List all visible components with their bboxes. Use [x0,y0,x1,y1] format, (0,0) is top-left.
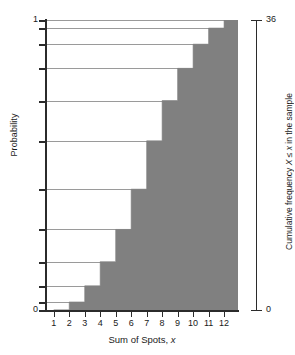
cumulative-step-area [54,20,238,310]
y-axis-tick [39,286,46,288]
x-axis-line [45,310,239,312]
y-axis-tick [39,141,46,143]
x-axis-tick [224,311,225,317]
x-axis-title: Sum of Spots, x [46,334,238,345]
y-axis-right-tick-label-bottom: 0 [266,305,271,314]
x-axis-tick [85,311,86,317]
x-axis-tick-label: 1 [47,319,61,328]
x-axis-tick [162,311,163,317]
y-axis-right-title-line1: Cumulative frequency X ≤ x in the sample [284,93,294,250]
right-title-leq: ≤ [284,150,294,159]
x-axis-tick [131,311,132,317]
x-axis-tick [147,311,148,317]
y-axis-tick [39,20,46,22]
right-title-seg-c: in the sample [284,93,294,146]
y-axis-tick [39,302,46,304]
y-axis-right-line [256,20,257,310]
x-axis-tick [54,311,55,317]
x-axis-tick-label: 9 [171,319,185,328]
y-axis-right-cap-bottom [251,310,262,311]
x-axis-tick [209,311,210,317]
right-title-seg-a: Cumulative frequency [284,165,294,250]
right-title-var-x: x [284,146,294,150]
y-axis-tick [39,262,46,264]
x-axis-tick-label: 6 [124,319,138,328]
y-axis-right-cap-top [251,20,262,21]
y-axis-tick [39,229,46,231]
y-axis-tick [39,101,46,103]
step-area-series [46,20,238,310]
x-axis-tick [193,311,194,317]
y-axis-left-title: Probability [9,85,19,185]
x-axis-tick-label: 12 [217,319,231,328]
y-axis-right-title: Cumulative frequency X ≤ x in the sample… [284,57,295,287]
y-axis-left-line [45,19,47,311]
y-axis-tick [39,44,46,46]
x-axis-tick-label: 3 [78,319,92,328]
x-axis-tick-label: 8 [155,319,169,328]
x-axis-tick [116,311,117,317]
x-axis-tick [69,311,70,317]
cumulative-distribution-chart: 1 0 Probability 123456789101112 Sum of S… [0,0,294,355]
x-axis-title-variable: x [171,334,176,345]
right-title-var-X: X [284,160,294,166]
x-axis-tick [100,311,101,317]
x-axis-tick-label: 2 [62,319,76,328]
y-axis-left-tick-label-bottom: 0 [33,305,38,314]
x-axis-title-text: Sum of Spots, [108,334,170,345]
y-axis-right-tick-label-top: 36 [266,15,276,24]
x-axis-tick-label: 4 [93,319,107,328]
y-axis-tick [39,68,46,70]
y-axis-tick [39,189,46,191]
y-axis-tick [39,28,46,30]
x-axis-tick [178,311,179,317]
y-axis-left-tick-label-top: 1 [33,15,38,24]
x-axis-tick-label: 7 [140,319,154,328]
plot-area [46,20,238,310]
x-axis-tick-label: 11 [202,319,216,328]
x-axis-tick-label: 5 [109,319,123,328]
x-axis-tick-label: 10 [186,319,200,328]
